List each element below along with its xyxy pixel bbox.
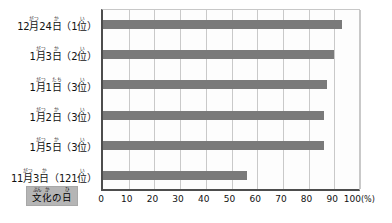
bar <box>103 50 334 59</box>
bar <box>103 20 342 29</box>
category-label: 1月がつ5日か（3位い） <box>29 137 97 153</box>
category-label: 11月がつ3日か（121位い） <box>11 168 97 184</box>
x-tick-label: 10 <box>121 193 132 205</box>
category-label: 1月がつ1日たち（3位い） <box>29 77 97 93</box>
chart-row: 1月がつ3日か（2位い） <box>0 39 392 69</box>
bar <box>103 111 324 120</box>
x-tick-label: 30 <box>172 193 183 205</box>
x-tick-label: 60 <box>249 193 260 205</box>
culture-day-badge: 文ぶん化かの日ひ <box>26 186 78 206</box>
chart-rows: 12月がつ24日か（1位い）1月がつ3日か（2位い）1月がつ1日たち（3位い）1… <box>0 9 392 191</box>
x-tick-label: 20 <box>147 193 158 205</box>
bar <box>103 80 327 89</box>
x-tick-label: 100(%) <box>344 193 375 206</box>
x-axis-unit: (%) <box>361 195 375 204</box>
bar <box>103 141 324 150</box>
x-tick-label: 70 <box>275 193 286 205</box>
chart-row: 1月がつ1日たち（3位い） <box>0 70 392 100</box>
bar-chart: 12月がつ24日か（1位い）1月がつ3日か（2位い）1月がつ1日たち（3位い）1… <box>0 0 392 223</box>
clipped-caption-strip <box>0 218 392 223</box>
chart-row: 12月がつ24日か（1位い） <box>0 9 392 39</box>
x-tick-label: 0 <box>98 193 104 205</box>
category-label: 12月がつ24日か（1位い） <box>17 16 97 32</box>
category-label: 1月がつ2日か（3位い） <box>29 107 97 123</box>
chart-row: 1月がつ5日か（3位い） <box>0 130 392 160</box>
bar <box>103 171 247 180</box>
chart-row: 1月がつ2日か（3位い） <box>0 100 392 130</box>
x-tick-label: 50 <box>224 193 235 205</box>
x-axis-ticks: 0102030405060708090100(%) <box>101 193 360 207</box>
category-label: 1月がつ3日か（2位い） <box>29 46 97 62</box>
x-tick-label: 90 <box>327 193 338 205</box>
x-tick-label: 80 <box>301 193 312 205</box>
x-tick-label: 40 <box>198 193 209 205</box>
